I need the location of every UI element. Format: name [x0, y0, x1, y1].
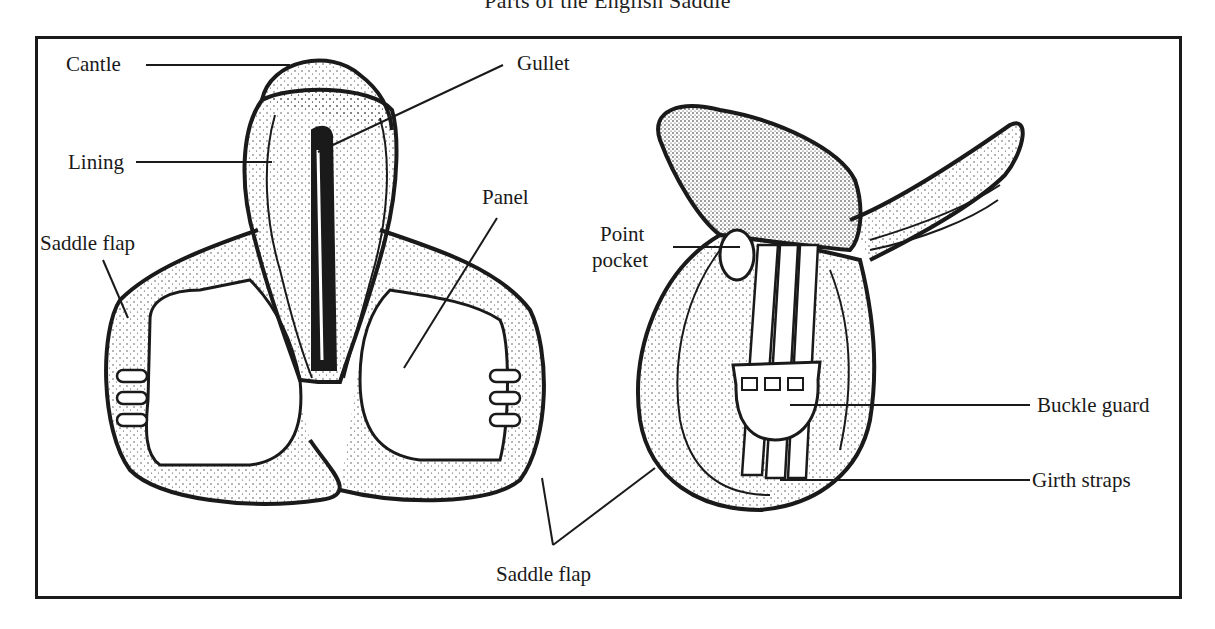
label-girth-straps: Girth straps — [1032, 469, 1131, 491]
label-buckle-guard: Buckle guard — [1037, 394, 1150, 416]
label-saddle-flap-bottom: Saddle flap — [496, 563, 591, 585]
label-saddle-flap-left: Saddle flap — [40, 232, 135, 254]
saddle-side-view — [638, 106, 1023, 510]
saddle-illustration — [0, 0, 1215, 629]
label-cantle: Cantle — [66, 53, 121, 75]
label-gullet: Gullet — [517, 52, 570, 74]
saddle-underside-view — [106, 60, 544, 503]
label-point-pocket-2: pocket — [592, 249, 648, 271]
label-panel: Panel — [482, 186, 529, 208]
label-lining: Lining — [68, 151, 124, 173]
label-point-pocket-1: Point — [600, 223, 644, 245]
